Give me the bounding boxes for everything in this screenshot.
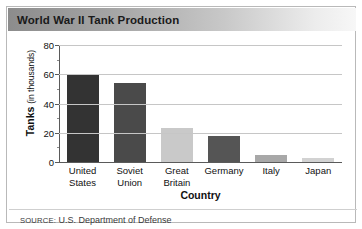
x-category-label-line: Japan: [295, 165, 342, 177]
y-tick-label: 40: [43, 98, 54, 109]
x-axis-category-labels: UnitedStatesSovietUnionGreatBritainGerma…: [59, 165, 342, 188]
y-axis-tick: [55, 104, 59, 105]
x-category-label: UnitedStates: [59, 165, 106, 188]
y-tick-label: 20: [43, 127, 54, 138]
source-prefix: SOURCE:: [20, 216, 56, 225]
y-axis-tick-labels: 806040200: [30, 45, 54, 162]
chart-title-bar: World War II Tank Production: [8, 8, 356, 31]
gridline: [59, 45, 342, 46]
y-axis-tick: [55, 133, 59, 134]
x-category-label-line: Italy: [248, 165, 295, 177]
y-tick-label: 60: [43, 69, 54, 80]
source-note: SOURCE: U.S. Department of Defense: [20, 215, 172, 225]
page-title: World War II Tank Production: [8, 14, 179, 26]
x-axis-label: Country: [59, 189, 342, 201]
bar-soviet-union[interactable]: [114, 83, 146, 162]
bar-italy[interactable]: [255, 155, 287, 162]
x-category-label-line: Great: [153, 165, 200, 177]
x-category-label: Germany: [200, 165, 247, 188]
plot-area: Tanks (in thousands) 806040200 UnitedSta…: [8, 31, 356, 223]
bar-germany[interactable]: [208, 136, 240, 162]
y-axis-tick: [55, 45, 59, 46]
x-category-label-line: Union: [106, 177, 153, 189]
x-category-label: Japan: [295, 165, 342, 188]
y-tick-label: 80: [43, 40, 54, 51]
axes: [59, 45, 342, 162]
x-category-label-line: States: [59, 177, 106, 189]
y-axis-minor-tick: [57, 89, 60, 90]
x-category-label-line: Soviet: [106, 165, 153, 177]
chart-figure: World War II Tank Production Tanks (in t…: [6, 6, 356, 223]
x-category-label: SovietUnion: [106, 165, 153, 188]
gridline: [59, 162, 342, 163]
gridline: [59, 74, 342, 75]
x-category-label-line: Germany: [200, 165, 247, 177]
y-axis-tick: [55, 162, 59, 163]
bar-united-states[interactable]: [67, 74, 99, 162]
x-category-label-line: United: [59, 165, 106, 177]
y-axis-minor-tick: [57, 118, 60, 119]
gridline: [59, 104, 342, 105]
y-axis-tick: [55, 74, 59, 75]
x-category-label-line: Britain: [153, 177, 200, 189]
gridline: [59, 133, 342, 134]
x-category-label: GreatBritain: [153, 165, 200, 188]
y-tick-label: 0: [49, 157, 54, 168]
source-text: U.S. Department of Defense: [56, 215, 172, 225]
y-axis-minor-tick: [57, 60, 60, 61]
source-divider: [9, 209, 357, 210]
x-category-label: Italy: [248, 165, 295, 188]
y-axis-minor-tick: [57, 147, 60, 148]
